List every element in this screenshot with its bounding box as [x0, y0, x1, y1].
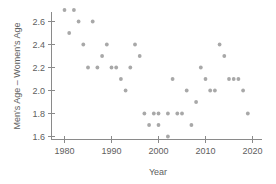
data-point	[96, 66, 100, 70]
data-point	[204, 77, 208, 81]
data-point	[199, 66, 203, 70]
data-point	[143, 112, 147, 116]
data-point	[86, 66, 90, 70]
data-point	[213, 89, 217, 93]
data-point	[91, 20, 95, 24]
data-point	[114, 66, 118, 70]
data-point	[246, 112, 250, 116]
y-tick-label: 2.0	[32, 86, 45, 96]
data-point	[208, 89, 212, 93]
y-axis-tick-labels: 2.6 2.4 2.2 2.0 1.8 1.6	[32, 17, 45, 142]
data-point	[157, 123, 161, 127]
data-point	[218, 43, 222, 47]
data-point	[185, 89, 189, 93]
y-tick-label: 1.8	[32, 109, 45, 119]
data-point	[166, 135, 170, 139]
x-axis-title: Year	[149, 167, 167, 177]
data-point	[67, 31, 71, 35]
x-axis-tick-labels: 1980 1990 2000 2010 2020	[54, 146, 262, 156]
data-point	[133, 43, 137, 47]
plot-canvas: 2.6 2.4 2.2 2.0 1.8 1.6 1980 1990 2000 2…	[0, 0, 276, 184]
data-point	[124, 89, 128, 93]
x-tick-label: 1980	[54, 146, 74, 156]
data-point	[105, 43, 109, 47]
data-point	[138, 54, 142, 58]
data-point	[232, 77, 236, 81]
data-point	[194, 100, 198, 104]
data-point	[128, 66, 132, 70]
y-tick-label: 2.2	[32, 63, 45, 73]
data-point	[166, 112, 170, 116]
data-point	[222, 54, 226, 58]
data-point	[110, 66, 114, 70]
data-point	[227, 77, 231, 81]
data-point	[81, 43, 85, 47]
y-tick-label: 2.4	[32, 40, 45, 50]
data-point	[157, 112, 161, 116]
x-tick-label: 1990	[101, 146, 121, 156]
data-point	[72, 8, 76, 12]
data-point	[147, 123, 151, 127]
y-tick-label: 2.6	[32, 17, 45, 27]
data-point	[241, 89, 245, 93]
data-point	[63, 8, 67, 12]
data-point	[171, 77, 175, 81]
data-point	[237, 77, 241, 81]
data-point	[175, 112, 179, 116]
data-point	[190, 123, 194, 127]
x-tick-label: 2010	[195, 146, 215, 156]
scatter-plot-figure: 2.6 2.4 2.2 2.0 1.8 1.6 1980 1990 2000 2…	[0, 0, 276, 184]
y-axis-title: Men's Age – Women's Age	[12, 23, 22, 130]
data-point	[100, 54, 104, 58]
data-point	[77, 20, 81, 24]
data-point	[119, 77, 123, 81]
x-tick-label: 2000	[148, 146, 168, 156]
y-tick-label: 1.6	[32, 132, 45, 142]
data-points-layer	[63, 8, 250, 138]
data-point	[152, 112, 156, 116]
x-tick-label: 2020	[242, 146, 262, 156]
data-point	[180, 112, 184, 116]
